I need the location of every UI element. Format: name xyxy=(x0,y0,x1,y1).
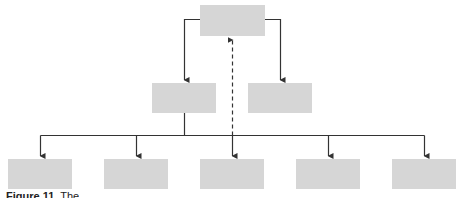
figure-caption: Figure 11. The xyxy=(6,189,79,198)
node-bottom-5 xyxy=(392,159,456,189)
caption-text: The xyxy=(60,190,79,198)
node-bottom-1 xyxy=(8,159,72,189)
node-bottom-3 xyxy=(200,159,264,189)
node-mid-left xyxy=(152,83,216,113)
caption-label: Figure 11. xyxy=(6,190,57,198)
node-bottom-4 xyxy=(296,159,360,189)
node-top xyxy=(200,5,265,36)
node-mid-right xyxy=(248,83,312,113)
node-bottom-2 xyxy=(104,159,168,189)
